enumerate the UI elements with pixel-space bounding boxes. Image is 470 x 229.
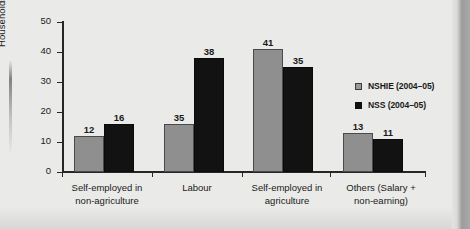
- bar-value-nshie-2: 41: [263, 37, 274, 48]
- x-category-label-3: Others (Salary + non-earning): [333, 182, 429, 207]
- bar-nss-0: 16: [104, 124, 134, 172]
- bar-value-nshie-1: 35: [174, 112, 185, 123]
- bar-value-nss-2: 35: [293, 55, 304, 66]
- y-tick-label-50: 50: [40, 15, 51, 26]
- y-tick-label-10: 10: [40, 135, 51, 146]
- page-edge-right-artifact: [452, 0, 470, 229]
- legend-item-nshie: NSHIE (2004–05): [355, 81, 434, 91]
- bar-nshie-1: 35: [164, 124, 194, 172]
- x-category-label-0: Self-employed in non-agriculture: [58, 182, 156, 207]
- y-tick-label-30: 30: [40, 75, 51, 86]
- bar-nshie-3: 13: [343, 133, 373, 172]
- x-category-label-0-line1: Self-employed in: [58, 182, 156, 195]
- bar-nss-3: 11: [373, 139, 403, 172]
- y-tick-label-20: 20: [40, 105, 51, 116]
- x-category-label-2-line2: agriculture: [238, 195, 336, 208]
- y-tick-label-0: 0: [46, 165, 51, 176]
- legend-swatch-nshie-icon: [355, 83, 362, 90]
- bar-nss-2: 35: [283, 67, 313, 172]
- x-category-label-0-line2: non-agriculture: [58, 195, 156, 208]
- legend-label-nss: NSS (2004–05): [368, 100, 426, 110]
- x-category-label-3-line2: non-earning): [333, 195, 429, 208]
- x-category-label-1-line1: Labour: [152, 182, 242, 195]
- y-tick-40: 40: [57, 52, 62, 53]
- bar-value-nshie-3: 13: [353, 121, 364, 132]
- legend-swatch-nss-icon: [355, 102, 362, 109]
- legend-label-nshie: NSHIE (2004–05): [368, 81, 434, 91]
- x-tick-1: [152, 172, 153, 177]
- bar-value-nss-0: 16: [114, 112, 125, 123]
- page-shadow-artifact: [0, 207, 452, 229]
- y-tick-20: 20: [57, 112, 62, 113]
- y-axis-title: Households (%): [0, 0, 7, 47]
- legend-item-nss: NSS (2004–05): [355, 100, 434, 110]
- y-tick-30: 30: [57, 82, 62, 83]
- chart-figure: Households (%) 50 40 30 20 10 0 12 16: [0, 0, 470, 229]
- x-tick-0: [62, 172, 63, 177]
- bar-value-nss-1: 38: [204, 46, 215, 57]
- x-category-label-1: Labour: [152, 182, 242, 195]
- page-edge-left-artifact: [9, 60, 12, 155]
- x-category-label-2: Self-employed in agriculture: [238, 182, 336, 207]
- bar-value-nshie-0: 12: [84, 124, 95, 135]
- x-category-label-3-line1: Others (Salary +: [333, 182, 429, 195]
- y-tick-label-40: 40: [40, 45, 51, 56]
- bar-nshie-2: 41: [253, 49, 283, 172]
- bar-value-nss-3: 11: [383, 127, 393, 138]
- bar-nshie-0: 12: [74, 136, 104, 172]
- y-tick-10: 10: [57, 142, 62, 143]
- x-tick-3: [330, 172, 331, 177]
- x-tick-2: [242, 172, 243, 177]
- x-tick-4: [425, 172, 426, 177]
- bar-nss-1: 38: [194, 58, 224, 172]
- y-tick-50: 50: [57, 22, 62, 23]
- chart-legend: NSHIE (2004–05) NSS (2004–05): [355, 81, 434, 119]
- x-category-label-2-line1: Self-employed in: [238, 182, 336, 195]
